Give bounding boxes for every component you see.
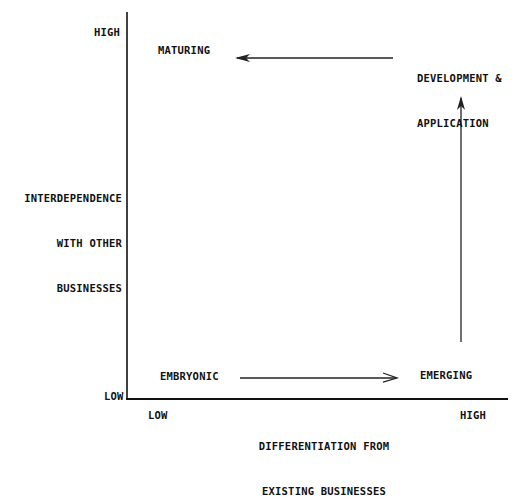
x-axis-high-label: HIGH	[460, 408, 486, 423]
stage-development-line-2: APPLICATION	[417, 116, 502, 131]
x-axis-title-line-2: EXISTING BUSINESSES	[244, 484, 404, 499]
arrow-embryonic-to-emerging	[240, 373, 397, 382]
y-axis-title-line-2: WITH OTHER	[8, 236, 122, 251]
arrow-development-to-maturing	[235, 54, 393, 62]
x-axis-title-line-1: DIFFERENTIATION FROM	[244, 439, 404, 454]
y-axis-title-line-3: BUSINESSES	[8, 281, 122, 296]
stage-emerging: EMERGING	[420, 368, 472, 383]
stage-embryonic: EMBRYONIC	[160, 369, 219, 384]
y-axis-title: INTERDEPENDENCE WITH OTHER BUSINESSES	[8, 161, 122, 311]
stage-maturing: MATURING	[158, 43, 210, 58]
x-axis-low-label: LOW	[148, 408, 168, 423]
stage-development-line-1: DEVELOPMENT &	[417, 71, 502, 86]
y-axis-title-line-1: INTERDEPENDENCE	[8, 191, 122, 206]
y-axis-high-label: HIGH	[94, 25, 120, 40]
y-axis-low-label: LOW	[104, 389, 124, 404]
x-axis-title: DIFFERENTIATION FROM EXISTING BUSINESSES	[244, 409, 404, 499]
stage-development-application: DEVELOPMENT & APPLICATION	[417, 41, 502, 146]
